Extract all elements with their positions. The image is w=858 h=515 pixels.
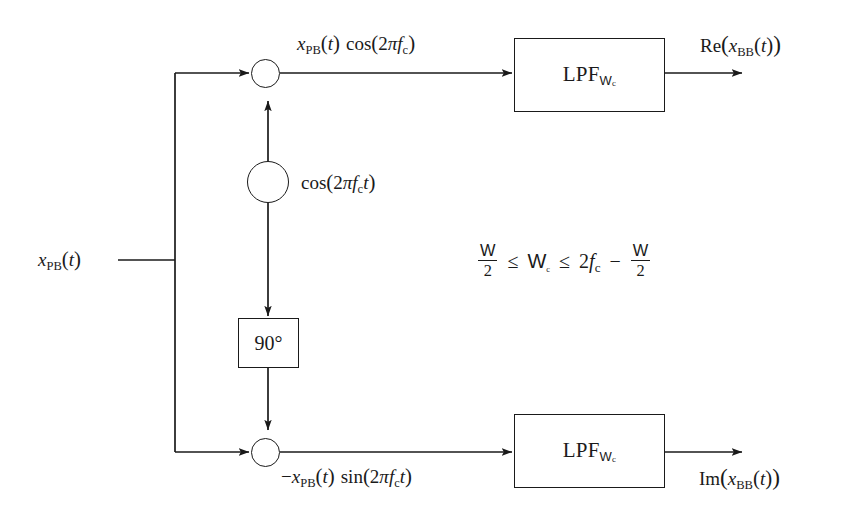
- constraint-relation-2: ≤: [555, 250, 574, 272]
- phase-shifter-block[interactable]: 90°: [238, 318, 299, 368]
- mixer-top-icon[interactable]: [251, 59, 280, 88]
- output-top-label: Re(xBB(t)): [700, 33, 781, 58]
- wire-layer: [0, 0, 858, 515]
- constraint-relation-1: ≤: [503, 250, 522, 272]
- bandwidth-constraint-label: W 2 ≤ Wc ≤ 2fc − W 2: [477, 242, 651, 279]
- constraint-right-fraction: W 2: [631, 242, 650, 279]
- lpf-top-block[interactable]: LPFWc: [514, 38, 665, 112]
- lpf-top-label: LPFWc: [563, 62, 616, 88]
- constraint-middle-symbol: Wc: [527, 250, 550, 272]
- constraint-right-term: 2fc: [579, 250, 600, 272]
- bottom-branch-signal-label: −xPB(t)sin(2πfct): [281, 466, 412, 489]
- output-bottom-label: Im(xBB(t)): [699, 466, 780, 491]
- phase-shifter-label: 90°: [255, 332, 283, 355]
- block-diagram-figure: LPFWc LPFWc 90° xPB(t) xPB(t)cos(2πfc) c…: [0, 0, 858, 515]
- constraint-minus: −: [605, 250, 624, 272]
- lpf-bottom-block[interactable]: LPFWc: [514, 414, 665, 488]
- oscillator-icon[interactable]: [247, 161, 289, 203]
- top-branch-signal-label: xPB(t)cos(2πfc): [297, 33, 415, 56]
- input-signal-label: xPB(t): [38, 249, 81, 272]
- mixer-bottom-icon[interactable]: [251, 438, 280, 467]
- lpf-bottom-label: LPFWc: [563, 438, 616, 464]
- oscillator-signal-label: cos(2πfct): [301, 172, 375, 195]
- constraint-left-fraction: W 2: [478, 242, 497, 279]
